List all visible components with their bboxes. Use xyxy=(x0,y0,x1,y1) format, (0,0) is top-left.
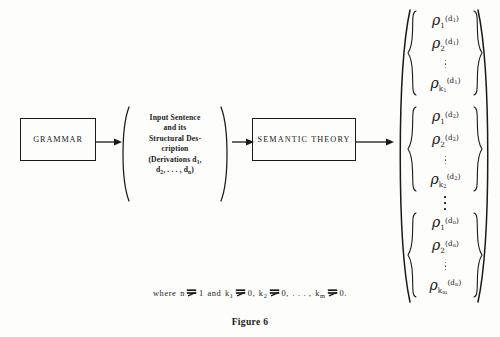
greater-equal-icon xyxy=(269,288,280,297)
rho-lines: ρ1(d2) ρ2(d2) ρk2(d2) xyxy=(418,106,473,192)
rho-item: ρ2(d2) xyxy=(432,132,459,148)
rho-superscript: (d2) xyxy=(445,110,459,119)
where-clause: where n1 and k10, k20, . . . , km0. xyxy=(0,288,500,298)
rho-lines: ρ1(d1) ρ2(d1) ρk1(d1) xyxy=(418,10,473,96)
rho-superscript: (d1) xyxy=(445,37,459,46)
figure-caption: Figure 6 xyxy=(0,316,500,327)
right-parenthesis-icon xyxy=(218,106,234,202)
rho-item: ρk1(d1) xyxy=(430,76,460,92)
rho-group-d1: ρ1(d1) ρ2(d1) ρk1(d1) xyxy=(407,10,483,96)
derivations-dots: , . . . , d xyxy=(163,165,188,174)
vertical-ellipsis-icon xyxy=(445,261,446,271)
input-sentence-line-4: cription xyxy=(131,144,219,154)
semantic-theory-box: SEMANTIC THEORY xyxy=(252,118,356,161)
where-zero-1: 0, xyxy=(248,289,255,298)
right-brace-icon xyxy=(472,212,483,298)
rho-superscript: (d2) xyxy=(447,172,461,181)
output-readings-block: ρ1(d1) ρ2(d1) ρk1(d1) xyxy=(394,8,494,304)
rho-item: ρk2(d2) xyxy=(430,172,460,188)
where-one: 1 xyxy=(199,289,204,298)
rho-item: ρ1(dn) xyxy=(432,215,459,231)
greater-equal-icon xyxy=(186,288,197,297)
where-dots: . . . , xyxy=(293,289,312,298)
rho-subscript: k1 xyxy=(439,84,447,93)
left-brace-icon xyxy=(407,10,418,96)
semantic-theory-label: SEMANTIC THEORY xyxy=(258,135,351,144)
rho-superscript: (dn) xyxy=(445,239,459,248)
vertical-ellipsis-icon xyxy=(445,59,446,69)
left-brace-icon xyxy=(407,212,418,298)
input-sentence-line-3: Structural Des- xyxy=(131,134,219,144)
rho-item: ρ2(dn) xyxy=(432,238,459,254)
derivations-comma: , xyxy=(200,155,202,164)
arrow-semantic-to-output-icon xyxy=(356,133,394,151)
input-sentence-line-2: and its xyxy=(131,123,219,133)
where-and: and xyxy=(207,289,221,298)
where-word: where xyxy=(153,289,176,298)
left-brace-icon xyxy=(407,106,418,192)
output-groups: ρ1(d1) ρ2(d1) ρk1(d1) xyxy=(407,8,483,304)
rho-lines: ρ1(dn) ρ2(dn) ρkm(dn) xyxy=(418,212,473,298)
greater-equal-icon xyxy=(235,288,246,297)
rho-superscript: (dn) xyxy=(447,278,461,287)
rho-superscript: (d1) xyxy=(447,76,461,85)
input-sentence-derivations-line-1: (Derivations d1, xyxy=(131,155,219,165)
where-zero-2: 0, xyxy=(281,289,288,298)
where-k2: k2 xyxy=(259,289,268,298)
where-k1: k1 xyxy=(225,289,234,298)
rho-superscript: (d2) xyxy=(445,133,459,142)
input-sentence-derivations-line-2: d2, . . . , dn) xyxy=(131,165,219,175)
rho-group-dn: ρ1(dn) ρ2(dn) ρkm(dn) xyxy=(407,212,483,298)
input-sentence-line-1: Input Sentence xyxy=(131,113,219,123)
group-separator-ellipsis-icon xyxy=(407,194,483,212)
where-zero-3: 0. xyxy=(340,289,347,298)
input-sentence-group: Input Sentence and its Structural Des- c… xyxy=(118,106,232,202)
rho-subscript: k2 xyxy=(439,180,447,189)
right-brace-icon xyxy=(472,106,483,192)
arrow-input-to-semantic-icon xyxy=(232,133,254,151)
right-brace-icon xyxy=(472,10,483,96)
where-km: km xyxy=(315,289,325,298)
rho-item: ρ1(d2) xyxy=(432,109,459,125)
rho-item: ρ1(d1) xyxy=(432,13,459,29)
left-parenthesis-icon xyxy=(116,106,132,202)
rho-superscript: (dn) xyxy=(445,216,459,225)
vertical-ellipsis-icon xyxy=(445,155,446,165)
rho-group-d2: ρ1(d2) ρ2(d2) ρk2(d2) xyxy=(407,106,483,192)
input-sentence-text: Input Sentence and its Structural Des- c… xyxy=(131,113,219,175)
grammar-box: GRAMMAR xyxy=(20,118,96,161)
greater-equal-icon xyxy=(327,288,338,297)
derivations-prefix: (Derivations d xyxy=(148,155,196,164)
where-n: n xyxy=(180,289,185,298)
figure-diagram: GRAMMAR Input Sentence and its Structura… xyxy=(0,0,500,337)
grammar-label: GRAMMAR xyxy=(33,135,83,144)
rho-item: ρ2(d1) xyxy=(432,36,459,52)
rho-superscript: (d1) xyxy=(445,14,459,23)
derivations-close-paren: ) xyxy=(191,165,194,174)
